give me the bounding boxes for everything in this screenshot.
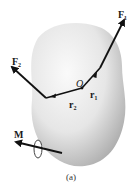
- label-r2: r₂: [69, 99, 76, 110]
- label-r1: r₁: [90, 89, 97, 100]
- moment-curl-icon: [34, 140, 42, 158]
- label-F1: F₁: [118, 9, 127, 20]
- label-M: M: [14, 129, 24, 140]
- figure-caption: (a): [66, 172, 76, 182]
- label-F2: F₂: [12, 56, 21, 67]
- rigid-body-diagram: F₁ F₂ r₁ r₂ O M (a): [0, 0, 137, 188]
- label-O: O: [76, 78, 83, 89]
